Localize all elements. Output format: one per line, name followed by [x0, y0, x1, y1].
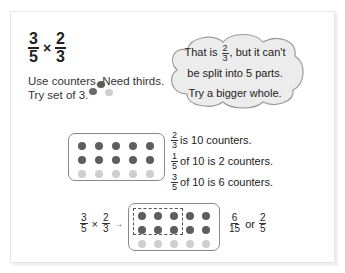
counter-tray	[68, 133, 165, 181]
multiply-sign: ×	[43, 40, 51, 56]
thought-bubble: That is 2 3 , but it can't be split into…	[165, 32, 305, 107]
three-counters-icon	[89, 81, 119, 99]
problem-title: 3 5 × 2 3	[28, 31, 66, 65]
fact-row: 2 3 is 10 counters.	[171, 130, 273, 150]
arrow-right-icon: →	[114, 218, 124, 229]
counter	[78, 170, 86, 178]
counter	[78, 142, 86, 150]
equation: 3 5 × 2 3 →	[80, 213, 124, 234]
counter	[78, 156, 86, 164]
counter	[129, 142, 137, 150]
title-fraction-right: 2 3	[55, 31, 66, 65]
bubble-text: That is 2 3 , but it can't be split into…	[165, 42, 305, 103]
equation-result: 6 15 or 2 5	[228, 213, 266, 234]
counter	[146, 156, 154, 164]
counter	[112, 156, 120, 164]
counter-grid	[78, 142, 154, 178]
counter	[112, 170, 120, 178]
counter	[95, 142, 103, 150]
counter	[95, 170, 103, 178]
counter	[112, 142, 120, 150]
counter	[129, 156, 137, 164]
fraction-facts: 2 3 is 10 counters. 1 5 of 10 is 2 count…	[171, 130, 273, 193]
counter	[146, 170, 154, 178]
selection-dashed-box	[133, 208, 183, 235]
counter	[95, 156, 103, 164]
fact-row: 3 5 of 10 is 6 counters.	[171, 172, 273, 192]
fact-row: 1 5 of 10 is 2 counters.	[171, 151, 273, 171]
counter	[146, 142, 154, 150]
counter	[129, 170, 137, 178]
counter-tray-result	[128, 203, 220, 251]
bubble-fraction: 2 3	[222, 44, 229, 63]
title-fraction-left: 3 5	[28, 31, 39, 65]
